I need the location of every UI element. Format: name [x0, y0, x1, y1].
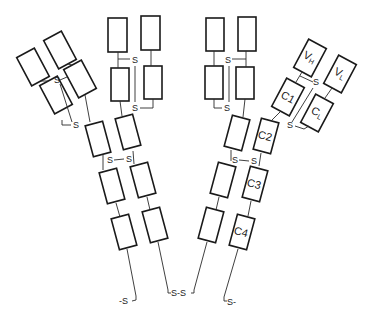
disulfide-label: S [107, 155, 113, 165]
domain-box [111, 68, 129, 101]
outer-right-fab: VH VL C1 CL S S [272, 39, 357, 132]
domain-box [99, 168, 125, 204]
domain-box [108, 18, 127, 52]
domain-box [17, 48, 50, 86]
disulfide-label: S [54, 75, 60, 85]
disulfide-label: S [132, 55, 138, 65]
disulfide-label: S [232, 155, 238, 165]
domain-box [238, 17, 256, 51]
domain-box [142, 207, 168, 243]
domain-box [111, 214, 137, 250]
domain-box [115, 114, 141, 150]
inner-left-fab: S S [108, 16, 162, 113]
right-fc: C2 S S C3 C4 S- [191, 99, 280, 307]
antibody-structure-diagram: S S S S S S VH [0, 0, 365, 318]
domain-box [141, 16, 160, 50]
disulfide-label: S [73, 120, 79, 130]
domain-box [206, 18, 224, 51]
inner-right-fab: S S [205, 17, 256, 113]
disulfide-label: S [132, 103, 138, 113]
left-fc: S S -S [85, 95, 171, 306]
domain-box [85, 121, 111, 157]
disulfide-label: S [126, 154, 132, 164]
domain-box [205, 66, 223, 99]
domain-box [236, 67, 254, 99]
domain-box [64, 60, 97, 98]
outer-left-fab: S S [17, 31, 97, 130]
tail-right-label: S- [227, 297, 236, 307]
disulfide-label: S [225, 55, 231, 65]
domain-box [198, 207, 224, 243]
domain-box [144, 66, 162, 99]
domain-box [130, 162, 156, 198]
disulfide-label: S [224, 103, 230, 113]
disulfide-label: S [287, 120, 293, 130]
tail-center-label: S-S [171, 288, 186, 298]
domain-box [224, 115, 250, 151]
disulfide-label: S [251, 156, 257, 166]
disulfide-label: S [313, 77, 319, 87]
domain-box [44, 31, 77, 69]
domain-box [210, 162, 236, 198]
tail-left-label: -S [119, 296, 128, 306]
